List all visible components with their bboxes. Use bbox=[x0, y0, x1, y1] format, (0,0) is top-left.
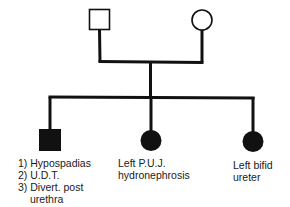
father-symbol bbox=[90, 10, 110, 30]
father-drop-line bbox=[100, 30, 101, 63]
child-1-label-line: urethra bbox=[18, 193, 91, 205]
child-2-label-line: hydronephrosis bbox=[118, 169, 190, 181]
child-1-label-line: 3) Divert. post bbox=[18, 181, 91, 193]
mother-symbol bbox=[192, 10, 212, 30]
child-1-affected-male-symbol bbox=[39, 129, 61, 151]
child-1-label-line: 2) U.D.T. bbox=[18, 169, 91, 181]
child-1-label-line: 1) Hypospadias bbox=[18, 157, 91, 169]
child-1-label: 1) Hypospadias 2) U.D.T. 3) Divert. post… bbox=[18, 157, 91, 205]
child-3-label: Left bifid ureter bbox=[233, 159, 273, 183]
child-2-affected-female-symbol bbox=[141, 130, 162, 151]
pedigree-diagram: 1) Hypospadias 2) U.D.T. 3) Divert. post… bbox=[0, 0, 290, 207]
child-2-label-line: Left P.U.J. bbox=[118, 157, 190, 169]
child-3-label-line: ureter bbox=[233, 171, 273, 183]
child-2-label: Left P.U.J. hydronephrosis bbox=[118, 157, 190, 181]
child-3-affected-female-symbol bbox=[243, 131, 264, 152]
child-3-label-line: Left bifid bbox=[233, 159, 273, 171]
